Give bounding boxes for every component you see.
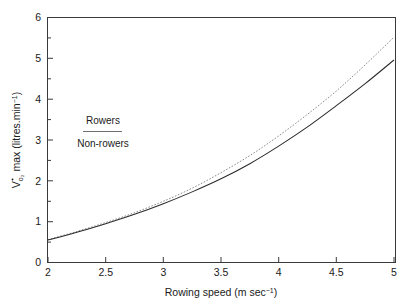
y-tick-label-2: 2 (35, 175, 41, 187)
y-axis-title-main: V (10, 181, 22, 188)
x-axis-title-main: Rowing speed (m sec (165, 286, 266, 298)
x-tick-label-3p5: 3.5 (214, 266, 229, 278)
y-tick-label-3: 3 (35, 134, 41, 146)
v-dot-icon (12, 179, 14, 181)
legend-label-rowers: Rowers (86, 115, 120, 126)
legend-label-nonrowers: Non-rowers (77, 138, 129, 149)
x-tick-label-4: 4 (276, 266, 282, 278)
y-axis-title-superscript: −1 (11, 95, 18, 103)
x-axis-title: Rowing speed (m sec−1) (165, 286, 277, 298)
svg-text:Rowing speed (m sec−1): Rowing speed (m sec−1) (165, 286, 277, 298)
series-line-nonrowers (48, 60, 394, 240)
x-tick-label-3: 3 (160, 266, 166, 278)
x-axis-major-ticks (48, 257, 394, 263)
y-axis-title: Vo₂ max (litres.min−1) (10, 92, 24, 188)
x-tick-label-4p5: 4.5 (329, 266, 344, 278)
y-axis-title-tail: ) (10, 92, 22, 96)
y-axis-major-ticks (48, 18, 54, 263)
y-axis-tick-labels: 0 1 2 3 4 5 6 (35, 11, 41, 268)
x-tick-label-2: 2 (45, 266, 51, 278)
y-tick-label-0: 0 (35, 256, 41, 268)
y-tick-label-6: 6 (35, 11, 41, 23)
y-axis-title-rest: max (litres.min (10, 103, 22, 174)
chart-figure: 0 1 2 3 4 5 6 2 2.5 3 3.5 4 4.5 5 (0, 0, 416, 307)
chart-legend: Rowers Non-rowers (77, 115, 129, 149)
x-axis-tick-labels: 2 2.5 3 3.5 4 4.5 5 (45, 266, 397, 278)
x-tick-label-5: 5 (391, 266, 397, 278)
x-tick-label-2p5: 2.5 (98, 266, 113, 278)
svg-text:Vo₂ max (litres.min−1): Vo₂ max (litres.min−1) (10, 92, 24, 188)
x-axis-title-superscript: −1 (266, 287, 274, 294)
line-chart: 0 1 2 3 4 5 6 2 2.5 3 3.5 4 4.5 5 (0, 0, 416, 307)
x-axis-title-tail: ) (274, 286, 278, 298)
y-tick-label-5: 5 (35, 52, 41, 64)
y-tick-label-4: 4 (35, 93, 41, 105)
y-tick-label-1: 1 (35, 215, 41, 227)
